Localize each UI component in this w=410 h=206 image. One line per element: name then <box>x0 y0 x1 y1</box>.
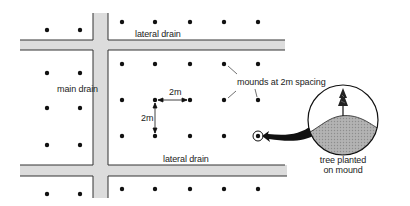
mound-dot <box>45 71 49 75</box>
mound-dot <box>120 62 124 66</box>
vertical-spacing-label: 2m <box>141 113 153 123</box>
mound-dot <box>78 143 82 147</box>
mound-dot <box>222 187 226 191</box>
mound-dot <box>188 98 192 102</box>
bottom-lateral-drain <box>20 165 287 176</box>
mound-dot <box>120 134 124 138</box>
mound-dot <box>153 62 157 66</box>
mound-dot <box>120 20 124 24</box>
mound-dot <box>188 134 192 138</box>
main-drain-label: main drain <box>57 84 98 94</box>
mound-dot <box>222 134 226 138</box>
mound-dot <box>188 20 192 24</box>
top-lateral-drain <box>20 40 285 50</box>
mound-dot <box>120 98 124 102</box>
mound-dot <box>256 187 260 191</box>
mound-dot <box>256 20 260 24</box>
drainage-planting-diagram: lateral drain lateral drain main drain m… <box>0 0 410 206</box>
mound-dot <box>45 192 49 196</box>
mound-dot <box>188 187 192 191</box>
mound-dot <box>222 98 226 102</box>
mound-dot <box>153 20 157 24</box>
mound-dot <box>78 71 82 75</box>
mound-dot <box>78 192 82 196</box>
mound-dot <box>120 187 124 191</box>
spacing-arrows <box>153 98 187 133</box>
bottom-lateral-drain-label: lateral drain <box>163 154 209 164</box>
tree-caption-line2: on mound <box>323 165 362 175</box>
mound-dot <box>222 20 226 24</box>
drain-network <box>20 13 287 198</box>
mound-dot <box>153 187 157 191</box>
main-drain <box>93 13 108 198</box>
mound-dot <box>45 143 49 147</box>
mound-dot <box>45 28 49 32</box>
mound-dot <box>78 28 82 32</box>
tree-caption-line1: tree planted <box>320 155 366 165</box>
curved-arrow-icon <box>262 125 316 142</box>
mound-dot <box>256 98 260 102</box>
mound-dot <box>256 62 260 66</box>
mound-dot <box>222 62 226 66</box>
mound-dot <box>45 106 49 110</box>
mounds-spacing-label: mounds at 2m spacing <box>237 77 326 87</box>
mound-dot <box>188 62 192 66</box>
tree-inset <box>300 80 390 160</box>
mound-dot <box>153 134 157 138</box>
mound-dot <box>256 134 260 138</box>
mound-dot <box>153 98 157 102</box>
top-lateral-drain-label: lateral drain <box>135 29 181 39</box>
mound-dot <box>78 106 82 110</box>
horizontal-spacing-label: 2m <box>169 87 181 97</box>
